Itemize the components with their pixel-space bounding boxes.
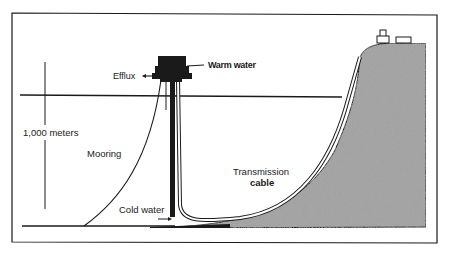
sea-surface — [20, 95, 342, 97]
shore-building — [396, 37, 411, 43]
otec-platform — [152, 56, 192, 82]
shore-building-chimney-base — [377, 36, 389, 43]
cold-water-label: Cold water — [119, 204, 164, 215]
otec-diagram: 1,000 meters Mooring Transmission cable … — [0, 0, 450, 256]
depth-label: 1,000 meters — [23, 127, 79, 138]
efflux-label: Efflux — [113, 71, 136, 81]
cold-water-arrow-icon — [168, 217, 172, 221]
warm-water-label: Warm water — [208, 60, 256, 70]
cold-water-pipe — [170, 80, 175, 217]
efflux-arrow-icon — [142, 74, 146, 78]
mooring-label: Mooring — [87, 148, 121, 159]
transmission-cable-label-2: cable — [250, 177, 274, 188]
warm-water-pointer — [187, 65, 204, 66]
transmission-cable-label-1: Transmission — [233, 166, 289, 177]
